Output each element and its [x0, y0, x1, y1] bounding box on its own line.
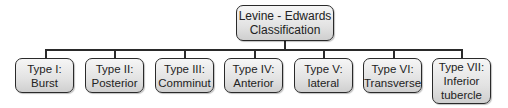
connector-type-v	[323, 49, 325, 58]
connector-type-iii	[184, 49, 186, 58]
node-type-iv-anterior: Type IV: Anterior	[224, 58, 283, 93]
node-type-ii-posterior: Type II: Posterior	[85, 58, 144, 93]
node-type-vii-inferior-tubercle: Type VII: Inferior tubercle	[432, 58, 491, 104]
node-type-vi-transverse: Type VI: Transverse	[363, 58, 422, 93]
connector-type-vii	[461, 49, 463, 58]
node-type-iii-comminut: Type III: Comminut	[155, 58, 214, 93]
node-type-v-lateral: Type V: lateral	[294, 58, 353, 93]
connector-type-vi	[393, 49, 395, 58]
connector-type-iv	[254, 49, 256, 58]
root-node-levine-edwards-classification: Levine - Edwards Classification	[236, 5, 334, 41]
connector-type-i	[45, 49, 47, 58]
connector-type-ii	[114, 49, 116, 58]
node-type-i-burst: Type I: Burst	[15, 58, 74, 93]
